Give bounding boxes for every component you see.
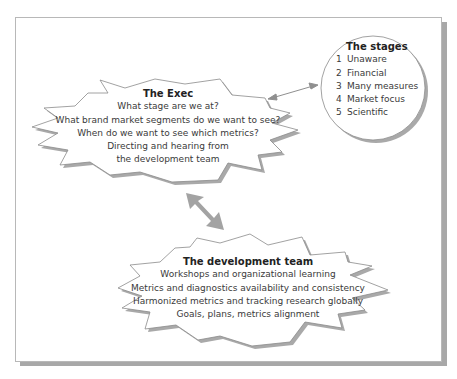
dev-team-title: The development team xyxy=(131,255,365,268)
stage-item: 2Financial xyxy=(336,67,418,80)
stage-number: 3 xyxy=(336,80,347,93)
dev-team-line: Goals, plans, metrics alignment xyxy=(131,308,365,321)
exec-title: The Exec xyxy=(56,87,281,100)
exec-line: What stage are we at? xyxy=(56,100,281,113)
stages-list: The stages 1Unaware 2Financial 3Many mea… xyxy=(336,40,418,120)
exec-text-block: The Exec What stage are we at? What bran… xyxy=(56,87,281,167)
dev-team-line: Workshops and organizational learning xyxy=(131,268,365,281)
stage-item: 4Market focus xyxy=(336,93,418,106)
stage-item: 5Scientific xyxy=(336,106,418,119)
stage-label: Unaware xyxy=(347,54,387,64)
stages-title: The stages xyxy=(346,40,418,53)
dev-team-line: Metrics and diagnostics availability and… xyxy=(131,282,365,295)
exec-line: the development team xyxy=(56,153,281,166)
stage-item: 1Unaware xyxy=(336,53,418,66)
dev-team-line: Harmonized metrics and tracking research… xyxy=(131,295,365,308)
exec-line: Directing and hearing from xyxy=(56,140,281,153)
stage-number: 2 xyxy=(336,67,347,80)
exec-dev-double-arrow xyxy=(186,193,224,230)
dev-team-text-block: The development team Workshops and organ… xyxy=(131,255,365,321)
stage-number: 1 xyxy=(336,53,347,66)
stage-number: 4 xyxy=(336,93,347,106)
stage-label: Market focus xyxy=(347,94,405,104)
stage-number: 5 xyxy=(336,106,347,119)
exec-line: What brand market segments do we want to… xyxy=(56,114,281,127)
stage-label: Scientific xyxy=(347,107,388,117)
stage-item: 3Many measures xyxy=(336,80,418,93)
stage-label: Financial xyxy=(347,68,386,78)
exec-line: When do we want to see which metrics? xyxy=(56,127,281,140)
stage-label: Many measures xyxy=(347,81,418,91)
